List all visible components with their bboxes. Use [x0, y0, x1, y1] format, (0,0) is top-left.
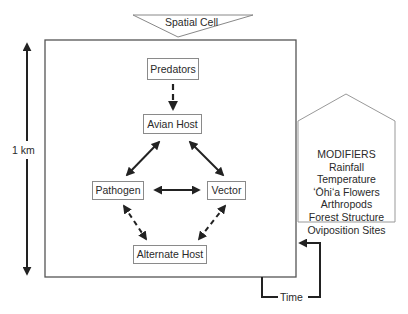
modifiers-list: MODIFIERS Rainfall Temperature ʻŌhiʻa Fl…	[298, 148, 395, 236]
time-label: Time	[280, 291, 303, 303]
arrow-avian-pathogen	[127, 142, 159, 175]
time-loop-left	[262, 277, 278, 297]
modifier-item: Rainfall	[298, 161, 395, 174]
spatial-cell-label: Spatial Cell	[165, 16, 218, 28]
modifier-item: ʻŌhiʻa Flowers	[298, 186, 395, 199]
scale-label: 1 km	[12, 144, 35, 156]
arrow-vector-alternate	[199, 206, 225, 239]
node-vector: Vector	[207, 181, 246, 200]
node-pathogen: Pathogen	[92, 181, 144, 200]
arrow-avian-vector	[190, 142, 223, 175]
modifier-item: Temperature	[298, 173, 395, 186]
node-predators: Predators	[147, 58, 199, 80]
modifier-item: Oviposition Sites	[298, 224, 395, 237]
node-avian-host: Avian Host	[143, 114, 202, 134]
arrow-pathogen-alternate	[124, 206, 146, 239]
modifiers-title: MODIFIERS	[298, 148, 395, 161]
node-alternate-host: Alternate Host	[133, 245, 207, 264]
modifier-item: Forest Structure	[298, 211, 395, 224]
modifier-item: Arthropods	[298, 198, 395, 211]
time-loop-right	[300, 243, 320, 297]
